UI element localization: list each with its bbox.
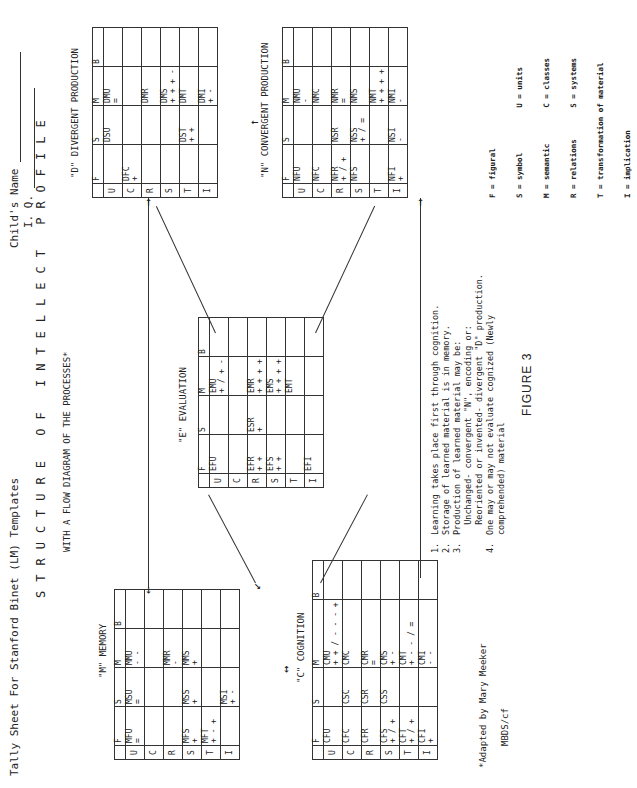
score-cell[interactable] [126, 590, 145, 629]
score-cell[interactable] [351, 28, 370, 67]
score-cell[interactable]: DST+ + [180, 106, 199, 145]
score-cell[interactable]: NMR= [332, 67, 351, 106]
score-cell[interactable] [229, 318, 248, 357]
score-cell[interactable]: MFS+ [183, 707, 202, 746]
score-cell[interactable]: CMU+ + / - - - + [324, 600, 343, 668]
score-cell[interactable]: EMR+ + + + [248, 357, 267, 396]
score-cell[interactable] [104, 28, 123, 67]
score-cell[interactable] [142, 28, 161, 67]
score-cell[interactable]: DMT [180, 67, 199, 106]
score-cell[interactable] [183, 590, 202, 629]
score-cell[interactable] [145, 668, 164, 707]
score-cell[interactable] [161, 106, 180, 145]
score-cell[interactable] [180, 28, 199, 67]
score-cell[interactable] [123, 106, 142, 145]
score-cell[interactable]: CMI- - [419, 600, 438, 668]
score-cell[interactable]: NFU [294, 145, 313, 184]
score-cell[interactable] [286, 396, 305, 435]
score-cell[interactable]: EFS+ + [267, 435, 286, 474]
score-cell[interactable]: CSS [381, 668, 400, 707]
score-cell[interactable]: NMC [313, 67, 332, 106]
score-cell[interactable]: NFI+ [389, 145, 408, 184]
score-cell[interactable]: NSR [332, 106, 351, 145]
score-cell[interactable]: MFU= [126, 707, 145, 746]
score-cell[interactable] [164, 590, 183, 629]
score-cell[interactable] [229, 396, 248, 435]
score-cell[interactable]: NMT+ + + + [370, 67, 389, 106]
score-cell[interactable]: CMR= [362, 600, 381, 668]
score-cell[interactable]: NMS [351, 67, 370, 106]
score-cell[interactable] [248, 318, 267, 357]
score-cell[interactable]: DMI+ - [199, 67, 218, 106]
score-cell[interactable]: DMU= [104, 67, 123, 106]
score-cell[interactable] [210, 318, 229, 357]
score-cell[interactable] [142, 145, 161, 184]
score-cell[interactable] [267, 318, 286, 357]
score-cell[interactable] [221, 629, 240, 668]
score-cell[interactable] [400, 668, 419, 707]
score-cell[interactable] [104, 145, 123, 184]
score-cell[interactable]: CSC [343, 668, 362, 707]
score-cell[interactable] [199, 28, 218, 67]
score-cell[interactable]: CFI+ [419, 707, 438, 746]
score-cell[interactable] [294, 28, 313, 67]
score-cell[interactable]: NSS+ / = [351, 106, 370, 145]
score-cell[interactable]: CFU [324, 707, 343, 746]
score-cell[interactable]: CSR [362, 668, 381, 707]
score-cell[interactable]: NMI- [389, 67, 408, 106]
score-cell[interactable]: CFR [362, 707, 381, 746]
score-cell[interactable] [180, 145, 199, 184]
score-cell[interactable] [305, 396, 324, 435]
score-cell[interactable] [370, 145, 389, 184]
score-cell[interactable] [210, 396, 229, 435]
score-cell[interactable]: EFU [210, 435, 229, 474]
score-cell[interactable] [199, 145, 218, 184]
score-cell[interactable] [229, 357, 248, 396]
score-cell[interactable]: CFS+ / + [381, 707, 400, 746]
score-cell[interactable]: MMS+ [183, 629, 202, 668]
score-cell[interactable] [419, 668, 438, 707]
score-cell[interactable] [145, 707, 164, 746]
score-cell[interactable]: MMU- - [126, 629, 145, 668]
score-cell[interactable]: DMS+ + + - [161, 67, 180, 106]
score-cell[interactable]: CFC [343, 707, 362, 746]
score-cell[interactable] [305, 357, 324, 396]
score-cell[interactable] [123, 28, 142, 67]
score-cell[interactable] [370, 106, 389, 145]
score-cell[interactable] [419, 561, 438, 600]
score-cell[interactable]: EMT [286, 357, 305, 396]
score-cell[interactable] [142, 106, 161, 145]
childs-name-blank[interactable] [11, 52, 21, 162]
score-cell[interactable]: CFT+ / + [400, 707, 419, 746]
score-cell[interactable] [161, 145, 180, 184]
score-cell[interactable]: DMR [142, 67, 161, 106]
score-cell[interactable] [370, 28, 389, 67]
score-cell[interactable]: MSS+ [183, 668, 202, 707]
score-cell[interactable] [229, 435, 248, 474]
score-cell[interactable]: DSU [104, 106, 123, 145]
score-cell[interactable]: NFS [351, 145, 370, 184]
score-cell[interactable]: CMC [343, 600, 362, 668]
score-cell[interactable]: CMS+ - [381, 600, 400, 668]
score-cell[interactable]: EFR+ + [248, 435, 267, 474]
score-cell[interactable] [343, 561, 362, 600]
score-cell[interactable] [381, 561, 400, 600]
score-cell[interactable]: MFT+ - + [202, 707, 221, 746]
score-cell[interactable] [267, 396, 286, 435]
score-cell[interactable] [221, 707, 240, 746]
score-cell[interactable]: MSU= [126, 668, 145, 707]
score-cell[interactable]: EMU+ / + - [210, 357, 229, 396]
score-cell[interactable] [362, 561, 381, 600]
score-cell[interactable] [199, 106, 218, 145]
score-cell[interactable] [286, 435, 305, 474]
score-cell[interactable]: NFC [313, 145, 332, 184]
score-cell[interactable]: CMT+ - - / = [400, 600, 419, 668]
score-cell[interactable]: ESR+ [248, 396, 267, 435]
score-cell[interactable]: MSI+ - [221, 668, 240, 707]
score-cell[interactable] [389, 28, 408, 67]
score-cell[interactable] [400, 561, 419, 600]
score-cell[interactable]: DFC+ [123, 145, 142, 184]
score-cell[interactable] [202, 590, 221, 629]
score-cell[interactable] [313, 106, 332, 145]
score-cell[interactable]: NFR+ / + [332, 145, 351, 184]
